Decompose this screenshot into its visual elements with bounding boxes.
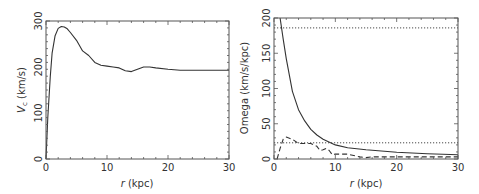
chart-canvas: 01020300100200300 r (kpc) Vc (km/s) 0102… [0, 0, 479, 194]
right-series-dashed-line [277, 137, 458, 159]
y-tick-label: 0 [261, 156, 272, 162]
left-panel-rotation-curve: 01020300100200300 r (kpc) Vc (km/s) [16, 11, 235, 189]
y-tick-label: 200 [261, 8, 272, 27]
y-tick-label: 200 [33, 57, 44, 76]
right-axis-ticks [274, 18, 458, 159]
x-tick-label: 0 [271, 162, 277, 173]
right-panel-omega: 0102030050100150200 r (kpc) Omega (km/s/… [239, 8, 464, 189]
left-tick-labels: 01020300100200300 [33, 11, 235, 173]
y-tick-label: 0 [33, 156, 44, 162]
right-plot-series [274, 18, 458, 159]
x-tick-label: 10 [101, 162, 114, 173]
y-tick-label: 150 [261, 44, 272, 63]
x-tick-label: 10 [329, 162, 342, 173]
figure: 01020300100200300 r (kpc) Vc (km/s) 0102… [0, 0, 479, 194]
x-tick-label: 30 [452, 162, 465, 173]
x-tick-label: 20 [162, 162, 175, 173]
y-tick-label: 300 [33, 11, 44, 30]
y-tick-label: 100 [33, 103, 44, 122]
right-x-axis-label: r (kpc) [350, 178, 383, 189]
y-tick-label: 100 [261, 79, 272, 98]
x-tick-label: 30 [223, 162, 236, 173]
left-y-axis-label: Vc (km/s) [16, 67, 29, 113]
right-tick-labels: 0102030050100150200 [261, 8, 464, 173]
left-series-solid-line [46, 27, 229, 160]
left-plot-frame [46, 21, 229, 159]
right-plot-frame [274, 18, 458, 159]
right-series-solid-line [280, 18, 458, 155]
y-tick-label: 50 [261, 117, 272, 130]
x-tick-label: 20 [390, 162, 403, 173]
left-plot-series [46, 27, 229, 160]
left-x-axis-label: r (kpc) [121, 178, 154, 189]
x-tick-label: 0 [43, 162, 49, 173]
left-axis-ticks [46, 21, 229, 159]
right-y-axis-label: Omega (km/s/kpc) [239, 42, 250, 134]
